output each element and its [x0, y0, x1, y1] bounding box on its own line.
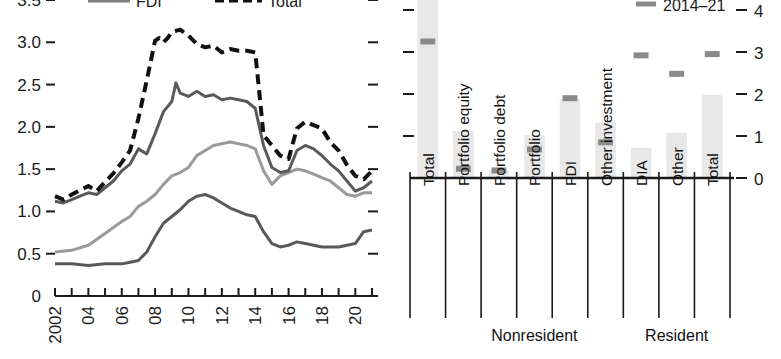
y-tick-label: 2: [754, 86, 763, 105]
marker-2014-21-dia: [634, 52, 649, 58]
x-tick-label: 16: [280, 306, 299, 325]
group-label: Resident: [645, 327, 709, 344]
right-chart-group-labels: NonresidentResident: [491, 327, 709, 344]
y-tick-label: 3.5: [17, 0, 41, 10]
y-tick-label: 0: [32, 287, 41, 306]
category-label: DIA: [633, 160, 650, 187]
marker-2014-21-fdi: [563, 95, 578, 101]
y-tick-label: 0: [754, 170, 763, 189]
y-tick-label: 3.0: [17, 33, 41, 52]
category-label: Total: [420, 153, 437, 186]
line-series-total: [55, 30, 372, 200]
category-label: Portfolio equity: [455, 83, 472, 186]
marker-2014-21-total: [705, 51, 720, 57]
left-line-chart-panel: FDITotal3.53.02.52.01.51.00.502002040608…: [0, 0, 400, 359]
right-chart-y-axis: 43210: [736, 2, 763, 189]
marker-2014-21-other: [669, 71, 684, 77]
x-tick-label: 10: [179, 306, 198, 325]
left-chart-right-axis-ticks: [368, 0, 378, 254]
category-label: FDI: [562, 161, 579, 186]
left-chart-legend: FDITotal: [88, 0, 302, 10]
category-label: Other: [669, 147, 686, 186]
figure-root: FDITotal3.53.02.52.01.51.00.502002040608…: [0, 0, 781, 359]
x-tick-label: 04: [79, 306, 98, 325]
left-chart-y-axis: 3.53.02.52.01.51.00.50: [17, 0, 55, 306]
x-tick-label: 14: [246, 306, 265, 325]
right-chart-legend: 2014–21: [636, 0, 725, 14]
right-chart-left-axis-ticks: [403, 10, 414, 136]
x-tick-label: 2002: [46, 306, 65, 344]
left-chart-x-axis: 2002040608101214161820: [46, 288, 378, 344]
x-tick-label: 08: [146, 306, 165, 325]
x-tick-label: 12: [213, 306, 232, 325]
x-tick-label: 18: [313, 306, 332, 325]
legend-label-fdi: FDI: [136, 0, 162, 10]
y-tick-label: 1.5: [17, 160, 41, 179]
y-tick-label: 0.5: [17, 245, 41, 264]
group-label: Nonresident: [491, 327, 578, 344]
y-tick-label: 4: [754, 2, 763, 21]
y-tick-label: 3: [754, 44, 763, 63]
right-bar-chart-panel: 2014–2143210TotalPortfolio equityPortfol…: [400, 0, 781, 359]
line-series-fdi: [55, 195, 372, 266]
right-chart-svg: 2014–2143210TotalPortfolio equityPortfol…: [400, 0, 781, 359]
legend-label-2014-21: 2014–21: [663, 0, 725, 14]
category-label: Portfolio debt: [491, 94, 508, 186]
x-tick-label: 20: [346, 306, 365, 325]
left-chart-svg: FDITotal3.53.02.52.01.51.00.502002040608…: [0, 0, 400, 359]
left-chart-series-group: [55, 30, 372, 266]
category-label: Portfolio: [526, 129, 543, 186]
bar-total: [417, 0, 438, 178]
category-label: Total: [704, 153, 721, 186]
category-label: Other investment: [598, 67, 615, 186]
legend-label-total: Total: [268, 0, 302, 10]
y-tick-label: 1: [754, 128, 763, 147]
y-tick-label: 2.0: [17, 118, 41, 137]
y-tick-label: 2.5: [17, 76, 41, 95]
x-tick-label: 06: [113, 306, 132, 325]
y-tick-label: 1.0: [17, 202, 41, 221]
marker-2014-21-total: [420, 39, 435, 45]
